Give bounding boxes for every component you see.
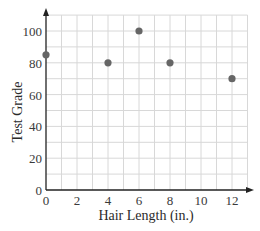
y-tick-label: 80 — [29, 56, 42, 71]
x-tick-label: 0 — [43, 193, 50, 208]
axes — [43, 8, 254, 193]
y-tick-label: 20 — [29, 151, 42, 166]
x-tick-label: 12 — [226, 193, 239, 208]
y-tick-labels: 020406080100 — [23, 24, 43, 198]
data-point — [135, 27, 142, 34]
y-axis-arrow-icon — [43, 8, 49, 16]
y-tick-label: 40 — [29, 119, 42, 134]
x-tick-label: 2 — [74, 193, 81, 208]
data-point — [42, 51, 49, 58]
data-point — [166, 59, 173, 66]
x-tick-labels: 024681012 — [43, 193, 239, 208]
y-tick-label: 60 — [29, 88, 42, 103]
x-tick-label: 8 — [167, 193, 174, 208]
x-tick-label: 4 — [105, 193, 112, 208]
y-axis-label: Test Grade — [10, 82, 25, 143]
data-point — [228, 75, 235, 82]
data-point — [104, 59, 111, 66]
x-axis-arrow-icon — [246, 187, 254, 193]
scatter-chart: 024681012 020406080100 Hair Length (in.)… — [0, 0, 260, 231]
y-tick-label: 0 — [36, 183, 43, 198]
x-axis-label: Hair Length (in.) — [98, 208, 194, 224]
y-tick-label: 100 — [23, 24, 43, 39]
x-tick-label: 10 — [195, 193, 208, 208]
grid-lines — [46, 15, 248, 190]
x-tick-label: 6 — [136, 193, 143, 208]
